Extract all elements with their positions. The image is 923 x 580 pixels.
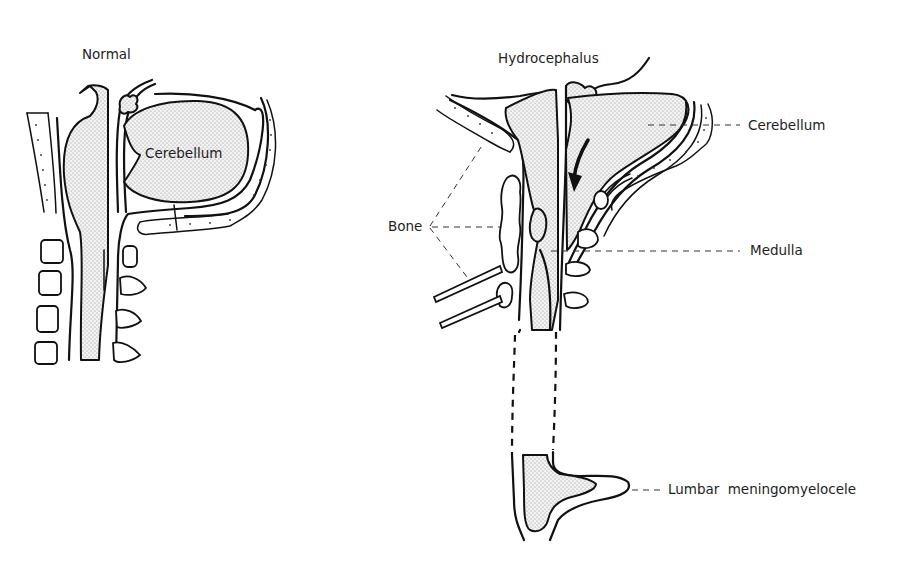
hydrocephalus-bone-label: Bone [388,220,422,234]
hydrocephalus-cerebellum [566,93,688,250]
hydrocephalus-medulla-label: Medulla [750,244,803,258]
lumbar-meningomyelocele-label: Lumbar meningomyelocele [668,483,856,497]
hydrocephalus-title: Hydrocephalus [498,52,599,66]
normal-frontal-bone [27,113,56,213]
normal-title: Normal [82,48,131,62]
hydrocephalus-bone-pieces [434,176,521,328]
bone-leader-line-bottom [430,228,470,281]
hydrocephalus-cerebellum-label: Cerebellum [748,119,825,133]
bone-leader-line-top [430,144,483,226]
hydrocephalus-panel [430,58,740,540]
normal-panel [27,80,276,364]
normal-cerebellum-label: Cerebellum [145,147,222,161]
normal-vertebrae-left [35,240,63,364]
figure-canvas: Normal Cerebellum Hydrocephalus Cerebell… [0,0,923,580]
